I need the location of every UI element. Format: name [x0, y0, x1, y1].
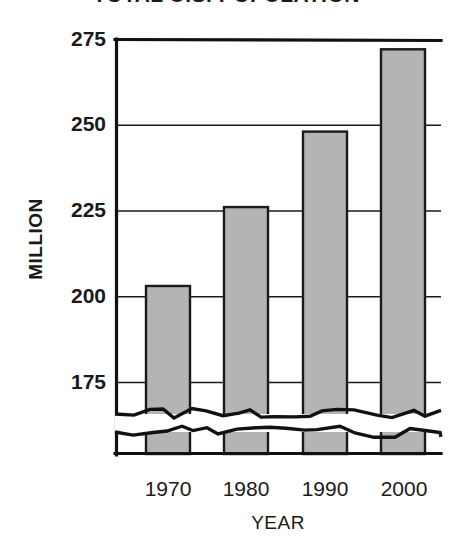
plot-area: [0, 0, 453, 546]
plot-top-rule: [115, 40, 441, 41]
bar-1990: [303, 132, 347, 454]
chart-figure: TOTAL U.S. POPULATION MILLION 275 250 22…: [0, 0, 453, 546]
bar-2000: [381, 49, 425, 454]
bar-series: [146, 49, 425, 454]
